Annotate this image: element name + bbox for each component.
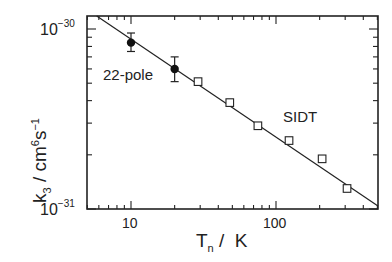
x-axis-label-main: T <box>196 230 208 251</box>
y-axis-label-main: k <box>29 194 50 204</box>
y-axis-label: k3 / cm6s−1 <box>29 118 53 203</box>
fit-line <box>97 16 378 206</box>
filled-circle-marker <box>170 65 178 73</box>
open-square-marker <box>318 155 326 163</box>
x-axis-label-unit: / K <box>214 230 248 251</box>
y-tick-base: 10 <box>40 21 58 38</box>
x-tick-label-10: 10 <box>122 215 138 231</box>
y-axis-label-unit2: s <box>29 131 50 141</box>
annotation-sidt: SIDT <box>283 108 317 125</box>
y-tick-exp: −31 <box>58 198 75 209</box>
y-tick-base: 10 <box>40 201 58 218</box>
y-axis-label-exp2: −1 <box>29 118 41 131</box>
y-axis-label-sub: 3 <box>41 187 53 193</box>
y-tick-exp: −30 <box>58 18 75 29</box>
annotation-22-pole: 22-pole <box>103 66 153 83</box>
fit-line-segment <box>97 16 378 206</box>
open-square-marker <box>343 185 351 193</box>
y-tick-label-1e-30: 10−30 <box>40 20 75 39</box>
x-tick-label-100: 100 <box>263 215 286 231</box>
filled-circle-marker <box>127 38 135 46</box>
y-axis-label-unit: cm <box>29 146 50 171</box>
open-square-marker <box>254 122 262 130</box>
open-square-marker <box>285 137 293 145</box>
y-axis-label-exp1: 6 <box>29 140 41 146</box>
y-axis-label-sep: / <box>29 172 50 188</box>
x-axis-label: Tn / K <box>196 230 248 254</box>
open-square-marker <box>194 78 202 86</box>
open-square-marker <box>226 99 234 107</box>
